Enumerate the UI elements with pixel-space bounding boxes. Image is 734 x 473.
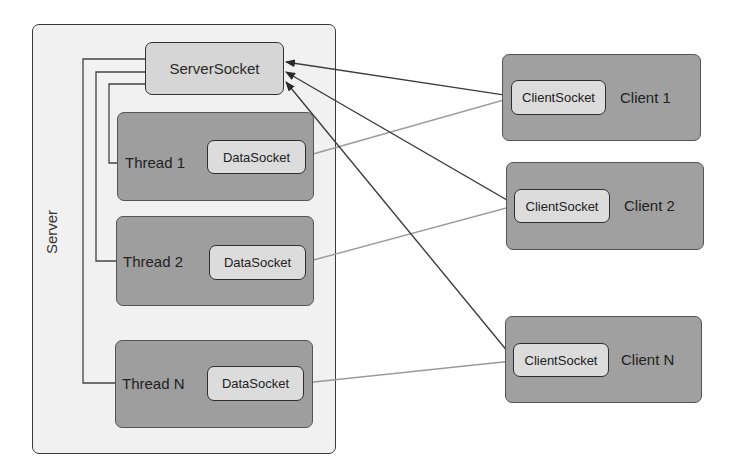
data-line-n bbox=[304, 361, 513, 383]
client-n-socket: ClientSocket bbox=[513, 343, 609, 377]
thread-2-data-socket: DataSocket bbox=[209, 245, 306, 280]
thread-n-label: Thread N bbox=[122, 375, 185, 392]
thread-2-label: Thread 2 bbox=[123, 253, 183, 270]
thread-n-data-socket: DataSocket bbox=[207, 366, 304, 401]
client-n-label: Client N bbox=[621, 351, 674, 368]
connect-arrow-n bbox=[286, 82, 513, 358]
data-line-2 bbox=[306, 206, 514, 262]
data-line-1 bbox=[306, 98, 511, 156]
client-2-label: Client 2 bbox=[624, 197, 675, 214]
thread-1-data-socket: DataSocket bbox=[207, 140, 306, 174]
client-1-socket: ClientSocket bbox=[511, 80, 606, 115]
server-socket: ServerSocket bbox=[145, 42, 284, 95]
client-1-label: Client 1 bbox=[620, 89, 671, 106]
thread-1-label: Thread 1 bbox=[125, 154, 185, 171]
client-2-socket: ClientSocket bbox=[514, 189, 610, 223]
